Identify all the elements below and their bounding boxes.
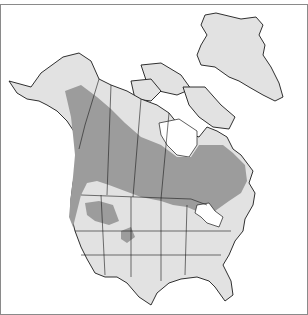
north-america-map [1, 5, 307, 314]
map-frame [0, 4, 308, 315]
baffin-island [183, 87, 235, 129]
greenland [197, 13, 283, 101]
